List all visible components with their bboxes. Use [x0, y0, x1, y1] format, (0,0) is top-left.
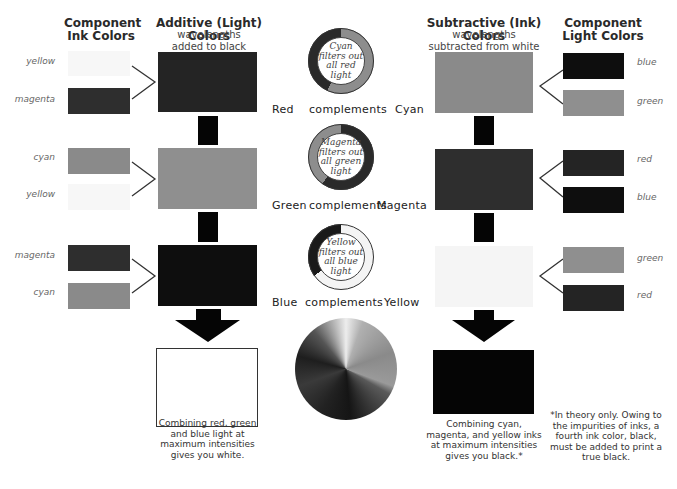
light-label: blue: [637, 57, 656, 67]
light-swatch-red: [563, 150, 624, 176]
light-label: green: [637, 253, 663, 263]
footnote: *In theory only. Owing to the impurities…: [548, 410, 664, 463]
light-swatch-green: [563, 247, 624, 273]
subtractive-result-caption: Combining cyan, magenta, and yellow inks…: [420, 419, 548, 461]
light-label: red: [637, 154, 652, 164]
light-swatch-blue: [563, 187, 624, 213]
light-label: blue: [637, 192, 656, 202]
light-label: red: [637, 290, 652, 300]
light-swatch-blue: [563, 53, 624, 79]
subtractive-result-black-box: [433, 350, 534, 414]
light-label: green: [637, 96, 663, 106]
light-swatch-green: [563, 90, 624, 116]
light-swatch-red: [563, 285, 624, 311]
